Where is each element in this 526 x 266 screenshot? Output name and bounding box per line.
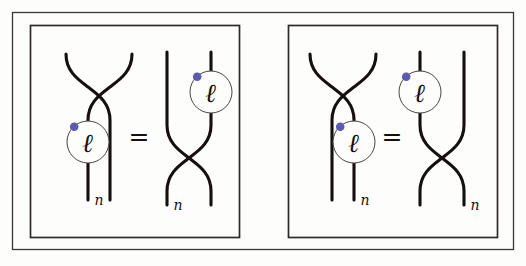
bead-ell-label: ℓ xyxy=(348,128,359,158)
braid-relation-figure: ℓ n = ℓ n xyxy=(0,0,526,266)
bead-ell-label: ℓ xyxy=(205,78,216,108)
foot-label-n: n xyxy=(360,192,369,208)
foot-label-n: n xyxy=(470,197,479,213)
right-panel-lhs-diagram: ℓ n xyxy=(310,54,376,208)
bead-group-right-panel-rhs: ℓ xyxy=(399,71,441,113)
right-panel-rhs-diagram: ℓ n xyxy=(399,52,480,213)
bead-group-left-panel-lhs: ℓ xyxy=(67,121,109,163)
bead-dot-icon xyxy=(402,73,411,82)
left-panel-rhs-diagram: ℓ n xyxy=(167,52,232,213)
bead-group-left-panel-rhs: ℓ xyxy=(190,71,232,113)
equals-sign-left-panel: = xyxy=(129,122,150,151)
right-relation-panel: ℓ n = ℓ n xyxy=(289,26,498,238)
left-relation-panel: ℓ n = ℓ n xyxy=(31,26,240,238)
bead-ell-label: ℓ xyxy=(82,128,93,158)
bead-dot-icon xyxy=(193,73,202,82)
figure-container: ℓ n = ℓ n xyxy=(0,0,526,266)
left-panel-lhs-diagram: ℓ n xyxy=(66,54,132,208)
foot-label-n: n xyxy=(94,192,103,208)
bead-group-right-panel-lhs: ℓ xyxy=(333,121,375,163)
equals-sign-right-panel: = xyxy=(382,122,403,151)
foot-label-n: n xyxy=(173,197,182,213)
bead-dot-icon xyxy=(70,123,79,132)
bead-ell-label: ℓ xyxy=(414,78,425,108)
bead-dot-icon xyxy=(336,123,345,132)
